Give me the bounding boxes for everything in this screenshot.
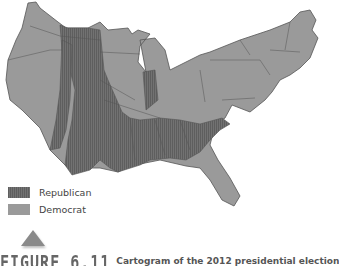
figure-caption: FIGURE 6.11Cartogram of the 2012 preside… — [0, 250, 339, 266]
legend-item-democrat: Democrat — [8, 201, 91, 217]
triangle-icon — [21, 230, 45, 246]
caption-text: Cartogram of the 2012 presidential elect… — [116, 256, 339, 266]
figure-number: FIGURE 6.11 — [0, 251, 110, 266]
republican-swatch — [8, 187, 30, 198]
legend-label: Democrat — [39, 204, 86, 215]
democrat-swatch — [8, 204, 30, 215]
map-legend: Republican Democrat — [8, 184, 91, 218]
legend-item-republican: Republican — [8, 184, 91, 200]
legend-label: Republican — [39, 187, 91, 198]
democrat-region — [6, 2, 318, 206]
